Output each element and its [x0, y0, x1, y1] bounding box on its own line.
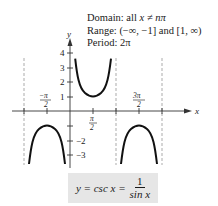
x-axis [12, 108, 186, 114]
formula-lhs: y = csc x = [76, 182, 126, 194]
x-tick-3pi-over-2: 3π 2 [132, 91, 145, 109]
range-line: Range: (−∞, −1] and [1, ∞) [87, 25, 202, 38]
domain-expr: x ≠ nπ [140, 12, 166, 23]
x-tick-pi-over-2: π 2 [89, 114, 97, 132]
svg-text:π: π [90, 114, 94, 123]
y-axis-arrow-icon [68, 38, 73, 46]
curve-branch-middle [75, 59, 111, 97]
y-tick-4: 4 [60, 48, 65, 58]
svg-text:2: 2 [90, 123, 94, 132]
svg-text:−π: −π [39, 91, 48, 100]
formula-box: y = csc x = 1 sin x [68, 173, 158, 203]
svg-text:3π: 3π [132, 91, 141, 100]
x-axis-arrow-icon [184, 109, 192, 114]
function-properties: Domain: all x ≠ nπ Range: (−∞, −1] and [… [87, 12, 202, 50]
svg-text:2: 2 [137, 100, 141, 109]
range-expr: (−∞, −1] and [1, ∞) [119, 25, 201, 36]
curve-branch-right [121, 126, 157, 165]
period-expr: 2π [120, 37, 131, 48]
y-tick-neg3: −3 [76, 150, 86, 160]
formula-fraction: 1 sin x [130, 176, 150, 200]
domain-line: Domain: all x ≠ nπ [87, 12, 202, 25]
period-line: Period: 2π [87, 37, 202, 50]
x-tick-neg-pi-over-2: −π 2 [39, 91, 51, 109]
svg-text:2: 2 [44, 100, 48, 109]
formula-numerator: 1 [135, 176, 145, 188]
y-axis-label: y [66, 29, 71, 39]
x-axis-label: x [194, 106, 199, 116]
y-tick-1: 1 [60, 92, 65, 102]
y-tick-3: 3 [60, 63, 65, 73]
curve-branch-left [29, 126, 65, 165]
y-axis [67, 44, 73, 168]
formula-denominator: sin x [130, 188, 150, 200]
y-tick-2: 2 [60, 77, 65, 87]
y-tick-neg2: −2 [76, 136, 86, 146]
